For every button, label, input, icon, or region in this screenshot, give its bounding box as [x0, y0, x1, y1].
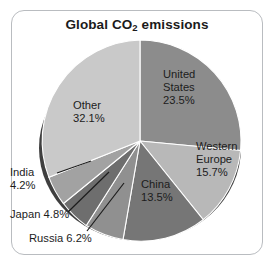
pie-label-other: Other 32.1% [73, 99, 105, 125]
chart-figure: Global CO2 emissions [0, 0, 277, 270]
pie-label-united-states-line2: States [163, 81, 195, 94]
pie-label-united-states-value: 23.5% [163, 94, 195, 107]
pie-label-china: China 13.5% [141, 178, 173, 204]
pie-label-russia: Russia 6.2% [29, 232, 92, 245]
pie-label-western-europe-value: 15.7% [196, 166, 237, 179]
pie-label-india-value: 4.2% [10, 179, 36, 192]
pie-label-western-europe: Western Europe 15.7% [196, 140, 237, 180]
pie-label-china-value: 13.5% [141, 191, 173, 204]
pie-label-united-states-line1: United [163, 68, 195, 81]
pie-label-other-line1: Other [73, 99, 105, 112]
pie-label-china-line1: China [141, 178, 173, 191]
pie-label-western-europe-line1: Western [196, 140, 237, 153]
pie-label-india-line1: India [10, 166, 36, 179]
pie-chart-graphic [0, 0, 277, 270]
pie-label-western-europe-line2: Europe [196, 153, 237, 166]
pie-label-india: India 4.2% [10, 166, 36, 192]
pie-label-japan: Japan 4.8% [10, 208, 69, 221]
pie-label-other-value: 32.1% [73, 112, 105, 125]
pie-label-united-states: United States 23.5% [163, 68, 195, 108]
